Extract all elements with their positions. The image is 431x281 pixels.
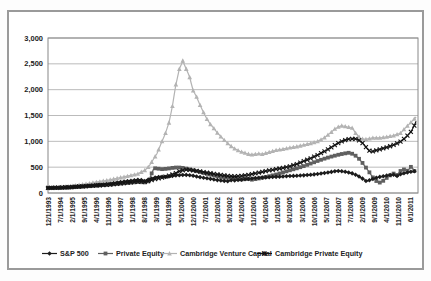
chart-svg: 05001,0001,5002,0002,5003,00012/1/19937/… xyxy=(0,0,431,281)
marker-x xyxy=(364,145,368,149)
y-tick-label: 1,500 xyxy=(24,111,43,120)
marker-x xyxy=(333,143,337,147)
series-line xyxy=(48,61,416,188)
x-tick-label: 6/1/2004 xyxy=(262,197,269,223)
marker-triangle xyxy=(163,131,168,135)
marker-square xyxy=(157,167,161,171)
x-tick-label: 10/1/2006 xyxy=(311,197,318,227)
marker-diamond xyxy=(326,170,331,175)
marker-diamond xyxy=(329,170,334,175)
x-tick-label: 3/1/1999 xyxy=(153,197,160,223)
x-tick-label: 11/1/1996 xyxy=(105,197,112,226)
y-tick-label: 1,000 xyxy=(24,137,43,146)
marker-diamond xyxy=(201,175,206,180)
marker-square xyxy=(350,152,354,156)
marker-diamond xyxy=(315,172,320,177)
marker-square xyxy=(326,156,330,160)
x-tick-label: 2/1/2009 xyxy=(359,197,366,223)
marker-diamond xyxy=(205,176,210,181)
legend-label: Private Equity xyxy=(116,249,164,258)
marker-diamond xyxy=(377,175,382,180)
marker-diamond xyxy=(322,171,327,176)
marker-diamond xyxy=(187,173,192,178)
marker-square xyxy=(343,151,347,155)
x-tick-label: 4/1/2010 xyxy=(383,197,390,223)
x-tick-label: 12/1/2007 xyxy=(335,197,342,227)
marker-square xyxy=(319,158,323,162)
legend-label: Cambridge Private Equity xyxy=(275,249,362,258)
marker-square xyxy=(378,181,382,185)
marker-square xyxy=(364,166,368,170)
x-tick-label: 8/1/2005 xyxy=(286,197,293,223)
marker-square xyxy=(309,162,313,166)
x-tick-label: 3/1/2006 xyxy=(299,197,306,223)
marker-square xyxy=(153,166,157,170)
y-tick-label: 0 xyxy=(39,189,43,198)
x-tick-label: 5/1/2000 xyxy=(178,197,185,223)
x-tick-label: 11/1/2003 xyxy=(250,197,257,226)
marker-x xyxy=(360,141,364,145)
y-tick-label: 3,000 xyxy=(24,34,43,43)
marker-square xyxy=(402,168,406,172)
marker-square xyxy=(361,161,365,165)
marker-square xyxy=(305,163,309,167)
legend-item-pe: Private Equity xyxy=(98,249,164,258)
marker-diamond xyxy=(194,174,199,179)
marker-square xyxy=(381,179,385,183)
marker-square xyxy=(333,154,337,158)
x-tick-label: 6/1/2011 xyxy=(407,197,414,223)
chart-figure: 05001,0001,5002,0002,5003,00012/1/19937/… xyxy=(0,0,431,281)
marker-triangle xyxy=(167,120,172,124)
legend-label: S&P 500 xyxy=(60,249,89,258)
marker-square xyxy=(316,159,320,163)
marker-square xyxy=(150,171,154,175)
marker-square xyxy=(167,167,171,171)
x-tick-label: 7/1/2008 xyxy=(347,197,354,223)
marker-triangle xyxy=(191,88,196,92)
x-tick-label: 10/1/1999 xyxy=(165,197,172,227)
marker-square xyxy=(368,170,372,174)
x-tick-label: 1/1/1998 xyxy=(129,197,136,223)
marker-triangle xyxy=(187,75,192,79)
marker-square xyxy=(329,155,333,159)
marker-square xyxy=(336,153,340,157)
x-tick-label: 4/1/1996 xyxy=(93,197,100,223)
series-cvc xyxy=(46,58,417,189)
marker-x xyxy=(405,134,409,138)
marker-triangle xyxy=(174,82,179,86)
marker-square xyxy=(312,160,316,164)
marker-x xyxy=(409,130,413,134)
legend-item-cpe: Cambridge Private Equity xyxy=(257,249,362,258)
y-tick-label: 2,000 xyxy=(24,85,43,94)
marker-square xyxy=(354,154,358,158)
x-tick-label: 12/1/2000 xyxy=(190,197,197,227)
marker-square xyxy=(340,152,344,156)
x-tick-label: 4/1/2003 xyxy=(238,197,245,223)
marker-diamond xyxy=(319,171,324,176)
legend-item-sp500: S&P 500 xyxy=(42,249,89,258)
marker-square xyxy=(104,252,108,256)
y-tick-label: 500 xyxy=(30,163,43,172)
marker-square xyxy=(164,167,168,171)
marker-square xyxy=(285,169,289,173)
x-tick-label: 9/1/1995 xyxy=(81,197,88,223)
x-tick-label: 2/1/2002 xyxy=(214,197,221,223)
legend-item-cvc: Cambridge Venture Capital xyxy=(162,249,272,258)
marker-square xyxy=(160,167,164,171)
marker-diamond xyxy=(191,173,196,178)
marker-triangle xyxy=(205,117,210,121)
marker-diamond xyxy=(346,170,351,175)
marker-square xyxy=(281,171,285,175)
x-tick-label: 12/1/1993 xyxy=(45,197,52,227)
marker-triangle xyxy=(180,58,185,62)
marker-triangle xyxy=(156,147,161,151)
x-tick-label: 9/1/2002 xyxy=(226,197,233,223)
marker-diamond xyxy=(198,175,203,180)
marker-square xyxy=(347,151,351,155)
marker-square xyxy=(409,165,413,169)
marker-triangle xyxy=(170,104,175,108)
marker-x xyxy=(367,149,371,153)
x-tick-label: 11/1/2010 xyxy=(395,197,402,226)
x-tick-label: 5/1/2007 xyxy=(323,197,330,223)
y-tick-label: 2,500 xyxy=(24,59,43,68)
